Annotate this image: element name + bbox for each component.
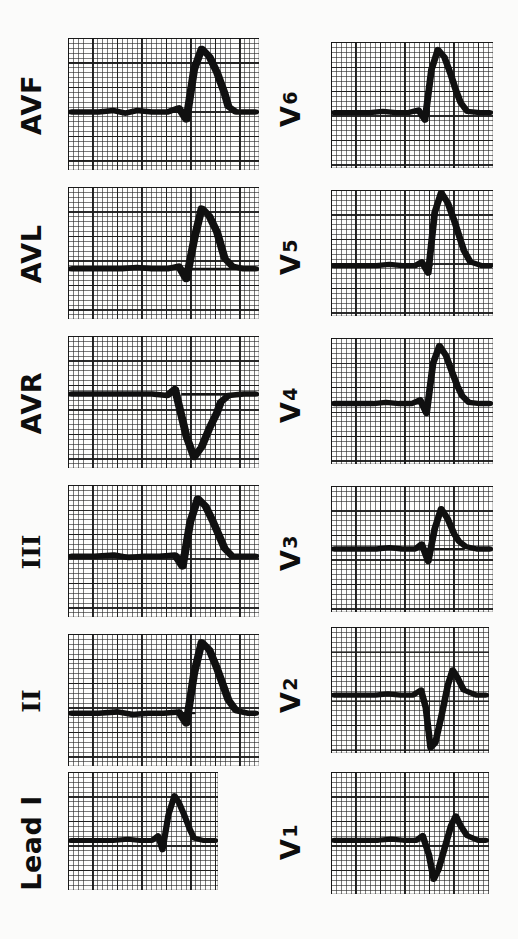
ecg-trace-v2: [334, 670, 486, 748]
ecg-column-limb-leads: AVF AVL AVR: [0, 0, 259, 939]
ecg-grid-v1: [331, 772, 489, 894]
lead-panel-v2: V2: [259, 625, 518, 765]
ecg-trace-v6: [334, 50, 490, 121]
lead-panel-v4: V4: [259, 338, 518, 472]
ecg-trace-v3: [334, 509, 490, 562]
ecg-figure: AVF AVL AVR: [0, 0, 518, 939]
lead-panel-v1: V1: [259, 772, 518, 912]
ecg-grid-i: [68, 772, 218, 890]
lead-panel-v3: V3: [259, 486, 518, 620]
ecg-trace-v5: [334, 193, 490, 274]
lead-panel-avf: AVF: [0, 34, 259, 176]
ecg-trace-v4: [334, 346, 490, 414]
lead-panel-avl: AVL: [0, 183, 259, 325]
ecg-grid-v5: [331, 190, 493, 316]
ecg-grid-v3: [331, 486, 493, 612]
ecg-grid-v4: [331, 338, 493, 464]
ecg-grid-v6: [331, 42, 493, 168]
ecg-trace-v1: [334, 816, 486, 879]
ecg-column-precordial-leads: V6 V5 V4: [259, 0, 518, 939]
lead-panel-v5: V5: [259, 190, 518, 324]
ecg-trace-i: [71, 796, 215, 850]
lead-panel-iii: III: [0, 481, 259, 623]
lead-panel-v6: V6: [259, 42, 518, 176]
lead-panel-avr: AVR: [0, 332, 259, 474]
ecg-grid-v2: [331, 627, 489, 753]
